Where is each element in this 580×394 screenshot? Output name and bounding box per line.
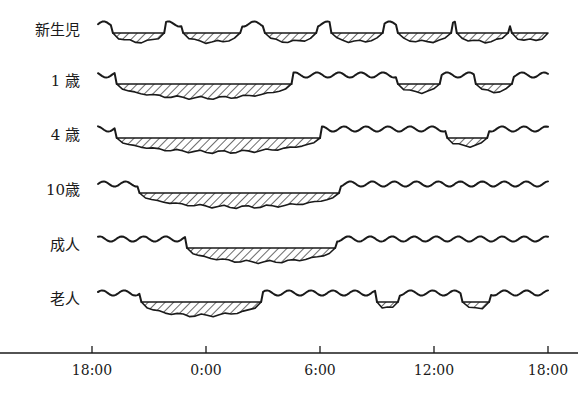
sleep-period xyxy=(183,33,240,43)
wake-period-line xyxy=(98,126,117,138)
sleep-period xyxy=(476,84,512,93)
age-row: 成人 xyxy=(50,236,548,264)
sleep-period xyxy=(398,84,440,94)
sleep-period xyxy=(140,193,340,208)
axis-tick-label: 6:00 xyxy=(304,362,335,378)
wake-period-line xyxy=(487,126,548,138)
row-label: 1 歳 xyxy=(51,72,80,90)
age-row: 老人 xyxy=(50,290,548,317)
sleep-period xyxy=(113,33,164,43)
age-rows: 新生児1 歳4 歳10歳成人老人 xyxy=(35,21,548,317)
sleep-period xyxy=(377,302,398,308)
wake-period-line xyxy=(440,72,476,84)
wake-period-line xyxy=(164,21,183,33)
wake-period-line xyxy=(98,73,117,84)
sleep-wake-diagram: 新生児1 歳4 歳10歳成人老人 18:000:006:0012:0018:00 xyxy=(0,0,580,394)
sleep-period xyxy=(187,248,335,264)
sleep-period xyxy=(331,33,382,43)
wake-period-line xyxy=(98,21,113,33)
axis-tick-label: 12:00 xyxy=(414,362,454,378)
wake-period-line xyxy=(320,126,447,138)
age-row: 10歳 xyxy=(46,181,548,208)
axis-tick-label: 18:00 xyxy=(528,362,568,378)
age-row: 1 歳 xyxy=(51,72,548,99)
wake-period-line xyxy=(261,290,377,302)
wake-period-line xyxy=(383,22,398,34)
wake-period-line xyxy=(98,236,187,248)
wake-period-line xyxy=(98,290,141,302)
sleep-period xyxy=(117,138,320,153)
sleep-period xyxy=(141,302,261,317)
age-row: 新生児 xyxy=(35,21,548,43)
wake-period-line xyxy=(512,72,548,84)
sleep-period xyxy=(463,302,490,309)
sleep-period xyxy=(512,33,548,40)
row-label: 4 歳 xyxy=(51,126,80,144)
wake-period-line xyxy=(98,181,140,193)
time-axis: 18:000:006:0012:0018:00 xyxy=(0,346,578,378)
wake-period-line xyxy=(292,72,398,84)
wake-period-line xyxy=(316,21,331,33)
wake-period-line xyxy=(335,236,548,248)
row-label: 新生児 xyxy=(35,21,80,39)
wake-period-line xyxy=(451,22,457,33)
sleep-period xyxy=(447,138,487,147)
wake-period-line xyxy=(508,26,512,33)
wake-period-line xyxy=(240,21,265,33)
row-label: 10歳 xyxy=(46,181,80,199)
wake-period-line xyxy=(339,181,548,193)
axis-ticks: 18:000:006:0012:0018:00 xyxy=(72,346,568,378)
sleep-period xyxy=(265,33,316,43)
row-label: 成人 xyxy=(50,236,80,254)
sleep-period xyxy=(117,84,292,99)
axis-tick-label: 0:00 xyxy=(190,362,221,378)
wake-period-line xyxy=(398,290,463,302)
age-row: 4 歳 xyxy=(51,126,548,153)
sleep-period xyxy=(398,33,451,43)
axis-tick-label: 18:00 xyxy=(72,362,112,378)
sleep-period xyxy=(457,33,508,43)
row-label: 老人 xyxy=(50,290,80,308)
wake-period-line xyxy=(489,290,548,302)
